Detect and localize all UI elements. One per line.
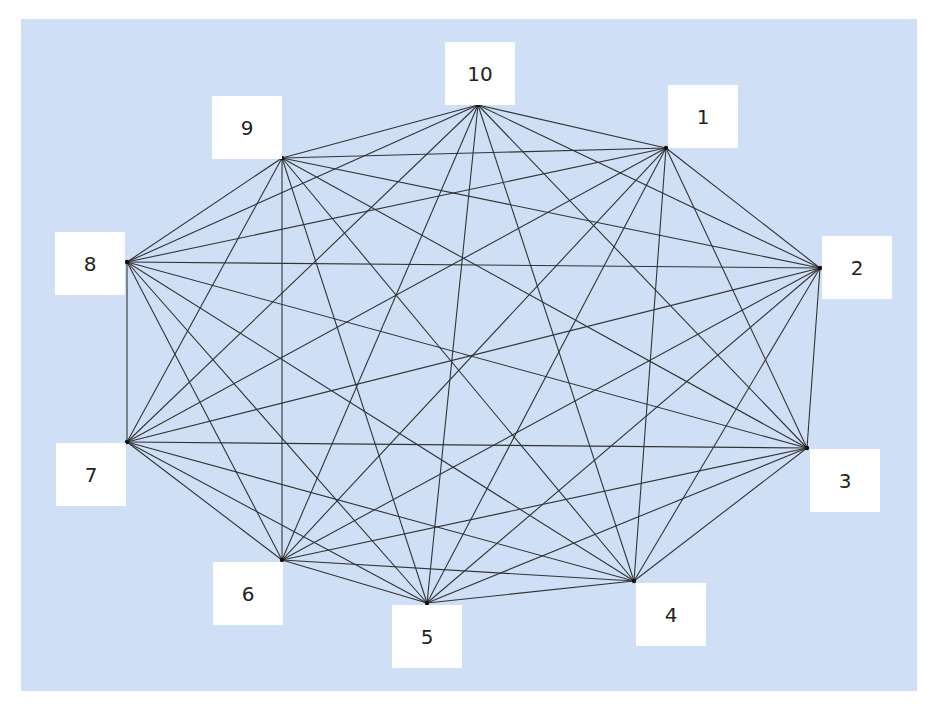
node-point-8 [125,260,129,264]
edge-8-10 [127,105,478,262]
edge-1-9 [282,148,666,158]
edge-3-9 [282,158,807,448]
node-point-3 [805,446,809,450]
node-label-1: 1 [668,85,738,148]
edge-2-8 [127,262,820,268]
edge-4-7 [127,442,634,581]
node-label-10: 10 [445,42,515,105]
edge-9-10 [282,105,478,158]
node-label-4: 4 [636,583,706,646]
edge-5-10 [427,105,478,603]
edge-8-9 [127,158,282,262]
node-label-2: 2 [822,236,892,299]
edge-6-7 [127,442,282,560]
edge-2-9 [282,158,820,268]
edge-4-6 [282,560,634,581]
edge-1-8 [127,148,666,262]
edge-3-8 [127,262,807,448]
edge-4-10 [478,105,634,581]
node-label-7: 7 [56,443,126,506]
edge-2-10 [478,105,820,268]
edge-1-3 [666,148,807,448]
edge-2-6 [282,268,820,560]
edge-3-6 [282,448,807,560]
node-label-6: 6 [213,562,283,625]
edge-6-10 [282,105,478,560]
graph-edges [0,0,947,707]
edge-1-6 [282,148,666,560]
edge-3-4 [634,448,807,581]
edge-5-8 [127,262,427,603]
edge-4-9 [282,158,634,581]
edge-4-5 [427,581,634,603]
edge-1-10 [478,105,666,148]
node-label-3: 3 [810,449,880,512]
edge-3-7 [127,442,807,448]
edge-2-7 [127,268,820,442]
node-label-5: 5 [392,605,462,668]
node-label-8: 8 [55,232,125,295]
edge-3-10 [478,105,807,448]
edge-7-10 [127,105,478,442]
node-label-9: 9 [212,96,282,159]
edge-1-2 [666,148,820,268]
edge-5-6 [282,560,427,603]
edge-2-4 [634,268,820,581]
edge-2-3 [807,268,820,448]
